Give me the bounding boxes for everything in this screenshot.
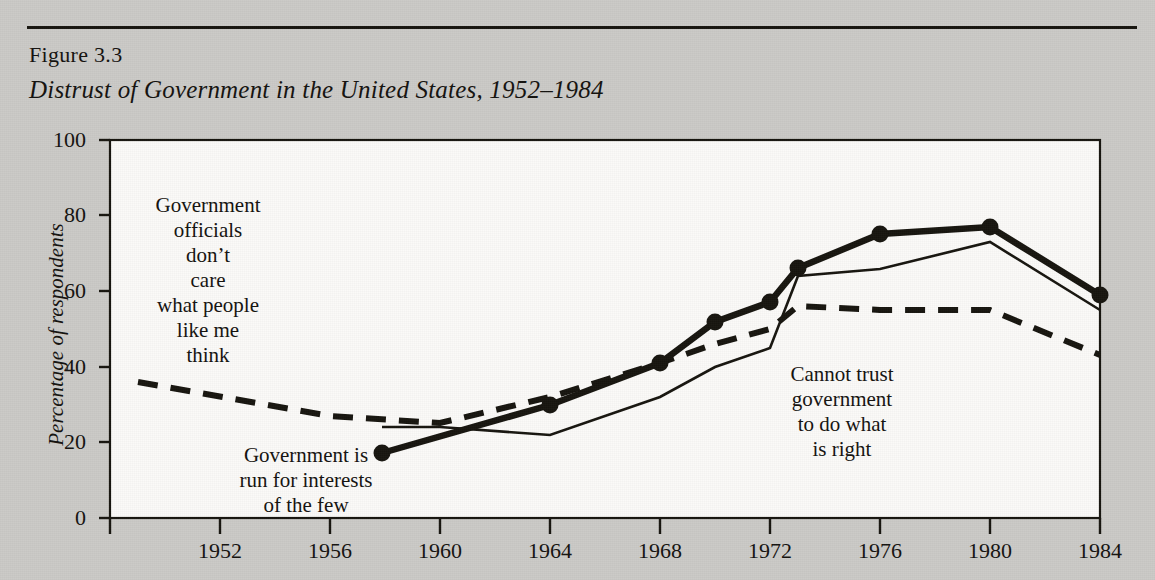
x-tick-1952: 1952 (180, 540, 260, 562)
x-tick-1984: 1984 (1060, 540, 1140, 562)
annotation-run-for-few: Government is run for interests of the f… (196, 443, 416, 518)
y-axis-title: Percentage of respondents (44, 215, 69, 455)
data-point-1968 (652, 355, 669, 372)
chart-area: 100 80 60 40 20 0 1952 1956 1960 1964 19… (0, 0, 1155, 580)
x-tick-1964: 1964 (510, 540, 590, 562)
y-tick-100: 100 (30, 129, 86, 151)
data-point-1972 (762, 294, 779, 311)
figure-page: Figure 3.3 Distrust of Government in the… (0, 0, 1155, 580)
x-axis-ticks (110, 518, 1100, 534)
data-point-1980 (982, 219, 999, 236)
data-point-1976 (872, 226, 889, 243)
data-point-1984 (1092, 287, 1109, 304)
data-point-1973 (790, 260, 807, 277)
annotation-officials-dont-care: Government officials don’t care what peo… (108, 193, 308, 368)
x-tick-1976: 1976 (840, 540, 920, 562)
x-tick-1956: 1956 (290, 540, 370, 562)
annotation-cannot-trust: Cannot trust government to do what is ri… (742, 362, 942, 462)
data-point-1964 (542, 397, 559, 414)
x-tick-1968: 1968 (620, 540, 700, 562)
x-tick-1972: 1972 (730, 540, 810, 562)
x-tick-1980: 1980 (950, 540, 1030, 562)
y-tick-0: 0 (30, 507, 86, 529)
x-tick-1960: 1960 (400, 540, 480, 562)
data-point-1970 (707, 314, 724, 331)
